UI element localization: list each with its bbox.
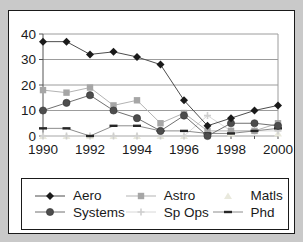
phd-dash-marker-icon xyxy=(212,206,244,218)
svg-text:40: 40 xyxy=(21,27,36,42)
astro-square-marker-icon xyxy=(125,190,157,202)
svg-text:1992: 1992 xyxy=(75,142,105,157)
chart-legend: Aero Astro Matls Systems Sp Ops Phd xyxy=(21,178,289,230)
legend-item-aero: Aero xyxy=(34,189,125,203)
svg-text:2000: 2000 xyxy=(263,142,293,157)
legend-item-phd: Phd xyxy=(212,206,286,220)
systems-circle-marker-icon xyxy=(34,206,66,218)
page-background: 010203040199019921994199619982000 Aero A… xyxy=(0,0,303,242)
aero-diamond-marker-icon xyxy=(34,190,66,202)
series-aero xyxy=(39,38,282,130)
svg-text:10: 10 xyxy=(21,103,36,118)
chart-frame: 010203040199019921994199619982000 Aero A… xyxy=(8,10,295,234)
svg-text:1998: 1998 xyxy=(216,142,246,157)
legend-item-systems: Systems xyxy=(34,206,125,220)
line-chart: 010203040199019921994199619982000 xyxy=(9,11,294,171)
sp-ops-plus-marker-icon xyxy=(125,206,157,218)
legend-label-phd: Phd xyxy=(251,206,275,220)
series-astro xyxy=(40,84,281,134)
svg-text:20: 20 xyxy=(21,78,36,93)
legend-label-astro: Astro xyxy=(164,189,196,203)
matls-triangle-marker-icon xyxy=(212,190,244,202)
svg-text:30: 30 xyxy=(21,52,36,67)
legend-label-sp-ops: Sp Ops xyxy=(164,206,209,220)
legend-label-aero: Aero xyxy=(73,189,102,203)
legend-label-systems: Systems xyxy=(73,206,125,220)
legend-item-sp-ops: Sp Ops xyxy=(125,206,212,220)
legend-label-matls: Matls xyxy=(251,189,283,203)
legend-item-astro: Astro xyxy=(125,189,212,203)
svg-text:1994: 1994 xyxy=(122,142,153,157)
svg-text:1990: 1990 xyxy=(28,142,58,157)
svg-text:1996: 1996 xyxy=(169,142,199,157)
legend-item-matls: Matls xyxy=(212,189,286,203)
